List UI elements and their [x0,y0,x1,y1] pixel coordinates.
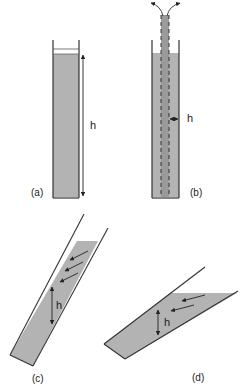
gap-label: h [187,112,193,124]
height-label: h [90,119,96,131]
panel-label-a: (a) [31,187,43,198]
fluid-layer [10,241,98,366]
panel-b: h (b) [151,3,202,198]
panel-label-c: (c) [32,373,44,384]
panel-label-d: (d) [192,372,204,383]
outflow-arrow-right [167,3,180,16]
panel-d: h (d) [104,267,238,383]
fluid-column [53,54,79,197]
panel-c: h (c) [10,214,108,384]
central-rod [161,15,169,197]
panel-a: h (a) [31,40,96,198]
thickness-label: h [56,299,62,311]
figure-canvas: h (a) h (b) h (c) h [0,0,249,392]
outflow-arrow-left [151,3,163,16]
panel-label-b: (b) [190,187,202,198]
thickness-label: h [164,316,170,328]
fluid-layer [104,293,237,359]
